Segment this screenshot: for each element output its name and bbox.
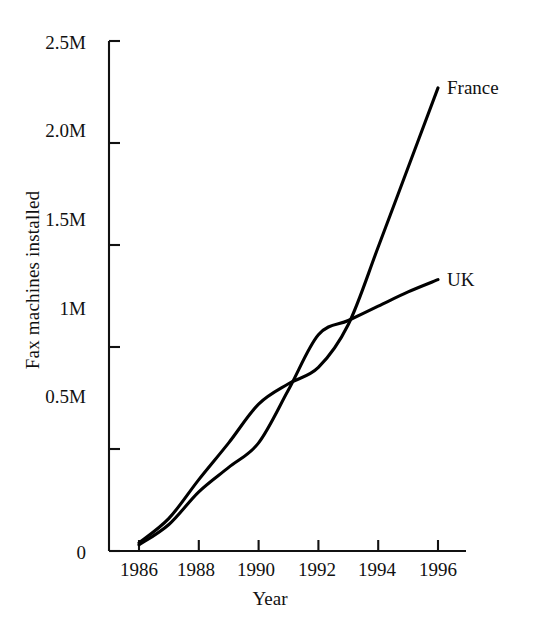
data-series-group <box>139 88 438 545</box>
series-line-uk <box>139 280 438 545</box>
fax-machines-line-chart: Fax machines installed 2.5M 2.0M 1.5M 1M… <box>0 0 540 638</box>
plot-area <box>0 0 540 638</box>
x-tick-marks <box>139 540 438 551</box>
axes <box>109 41 466 551</box>
series-line-france <box>139 88 438 543</box>
y-tick-marks <box>109 41 120 551</box>
